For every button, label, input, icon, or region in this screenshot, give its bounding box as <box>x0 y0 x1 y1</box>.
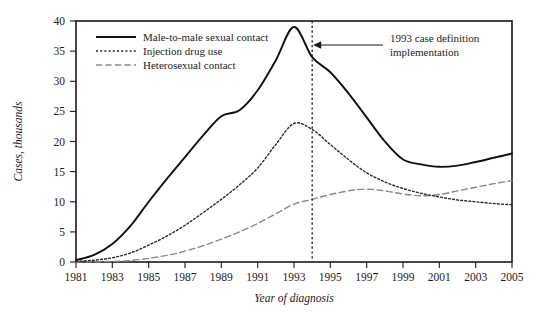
y-tick-label-35: 35 <box>54 45 66 57</box>
case-definition-label-line1: 1993 case definition <box>390 32 480 44</box>
x-tick-label-1983: 1983 <box>101 271 124 283</box>
x-tick-label-1997: 1997 <box>355 271 378 283</box>
y-tick-label-20: 20 <box>54 136 66 148</box>
x-tick-label-2003: 2003 <box>464 271 487 283</box>
x-tick-label-2001: 2001 <box>428 271 451 283</box>
case-definition-label-line2: implementation <box>390 46 460 58</box>
x-tick-label-1985: 1985 <box>137 271 160 283</box>
x-tick-label-1987: 1987 <box>174 271 197 283</box>
aids-cases-line-chart: 0 5 10 15 20 25 30 35 40 Cases, thousand… <box>0 0 544 315</box>
y-tick-label-0: 0 <box>59 256 65 268</box>
x-tick-label-2005: 2005 <box>501 271 524 283</box>
y-axis-ticks <box>70 21 76 262</box>
y-axis-tick-labels: 0 5 10 15 20 25 30 35 40 <box>54 15 66 268</box>
y-tick-label-5: 5 <box>59 226 65 238</box>
y-axis-title: Cases, thousands <box>12 101 25 181</box>
legend-label-male-to-male-sexual-contact: Male-to-male sexual contact <box>143 31 268 43</box>
x-tick-label-1993: 1993 <box>283 271 306 283</box>
legend-label-heterosexual-contact: Heterosexual contact <box>143 59 236 71</box>
x-axis-title: Year of diagnosis <box>254 292 334 305</box>
x-tick-label-1995: 1995 <box>319 271 342 283</box>
x-tick-label-1981: 1981 <box>65 271 88 283</box>
x-axis-tick-labels: 1981 1983 1985 1987 1989 1991 1993 1995 … <box>65 271 524 283</box>
legend-label-injection-drug-use: Injection drug use <box>143 45 223 57</box>
x-tick-label-1999: 1999 <box>392 271 415 283</box>
x-tick-label-1991: 1991 <box>246 271 269 283</box>
y-tick-label-40: 40 <box>54 15 66 27</box>
x-tick-label-1989: 1989 <box>210 271 233 283</box>
chart-figure: 0 5 10 15 20 25 30 35 40 Cases, thousand… <box>0 0 544 315</box>
y-tick-label-25: 25 <box>54 105 66 117</box>
x-axis-ticks <box>76 262 512 268</box>
y-tick-label-10: 10 <box>54 196 66 208</box>
y-tick-label-15: 15 <box>54 166 66 178</box>
y-tick-label-30: 30 <box>54 75 66 87</box>
